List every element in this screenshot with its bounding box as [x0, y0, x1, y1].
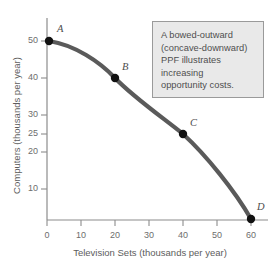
data-point-b [111, 74, 119, 82]
data-point-d [247, 215, 255, 223]
ppf-callout-box: A bowed-outward (concave-downward) PPF i… [152, 21, 264, 98]
x-tick-label-50: 50 [207, 231, 227, 240]
x-tick-label-30: 30 [139, 231, 159, 240]
x-tick-label-40: 40 [173, 231, 193, 240]
callout-line-1: A bowed-outward [161, 29, 256, 42]
y-tick-label-40: 40 [20, 73, 38, 82]
x-tick-label-60: 60 [241, 231, 261, 240]
y-tick-label-50: 50 [20, 36, 38, 45]
y-axis-ticks [41, 41, 47, 189]
point-label-c: C [190, 118, 197, 129]
callout-line-2: (concave-downward) [161, 42, 256, 55]
x-tick-label-20: 20 [105, 231, 125, 240]
callout-line-4: increasing [161, 67, 256, 80]
data-point-a [45, 37, 53, 45]
x-axis-ticks [47, 220, 251, 226]
ppf-chart: 50 40 30 25 20 10 0 10 20 30 40 50 60 A … [0, 0, 277, 267]
x-tick-label-0: 0 [37, 231, 57, 240]
data-point-c [179, 130, 187, 138]
callout-line-3: PPF illustrates [161, 54, 256, 67]
y-tick-label-20: 20 [20, 147, 38, 156]
point-label-d: D [257, 202, 265, 213]
y-tick-label-10: 10 [20, 184, 38, 193]
point-label-b: B [122, 62, 128, 73]
y-tick-label-30: 30 [20, 110, 38, 119]
callout-line-5: opportunity costs. [161, 79, 256, 92]
x-tick-label-10: 10 [71, 231, 91, 240]
x-axis-title: Television Sets (thousands per year) [30, 247, 270, 258]
y-tick-label-25: 25 [20, 129, 38, 138]
y-axis-title: Computers (thousands per year) [11, 46, 22, 206]
point-label-a: A [57, 24, 63, 35]
